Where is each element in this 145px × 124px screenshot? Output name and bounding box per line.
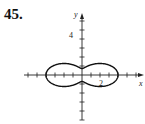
y-tick-label: 4	[69, 31, 73, 40]
y-axis-label: y	[73, 10, 78, 19]
y-axis-arrow-icon	[80, 13, 84, 19]
polar-graph: 2 4 x y	[0, 0, 145, 124]
x-axis-label: x	[138, 79, 143, 88]
x-axis-arrow-icon	[138, 73, 144, 77]
